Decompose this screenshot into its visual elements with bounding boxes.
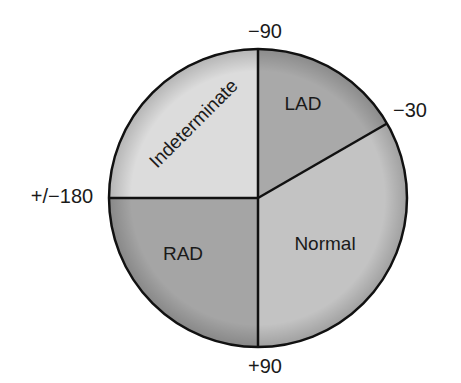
sector-label-lad: LAD	[285, 93, 322, 114]
sector-label-rad: RAD	[163, 243, 203, 264]
sector-label-normal: Normal	[294, 233, 355, 254]
angle-label-minus-90: −90	[248, 20, 282, 42]
angle-label-minus-30: −30	[393, 99, 427, 121]
angle-label-plus-minus-180: +/−180	[31, 185, 93, 207]
angle-label-plus-90: +90	[248, 355, 282, 377]
axis-circle-diagram: −90 −30 +/−180 +90 Indeterminate LAD Nor…	[0, 0, 461, 383]
